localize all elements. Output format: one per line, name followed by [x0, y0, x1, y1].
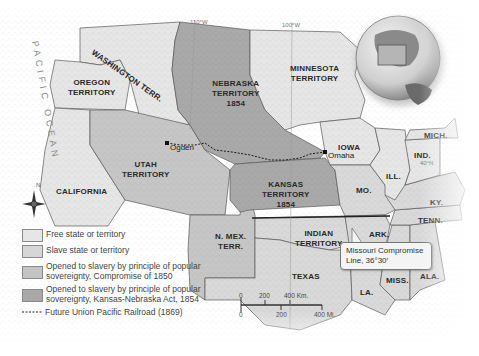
scale-mi-0: 0 — [239, 311, 243, 318]
legend-swatch-free — [22, 229, 43, 242]
label-ala: ALA. — [420, 272, 439, 282]
meridian-label-110w: 110°W — [190, 19, 208, 25]
label-utah: UTAH TERRITORY — [122, 160, 170, 180]
callout-line-1: Missouri Compromise — [346, 246, 426, 256]
label-indian: INDIAN TERRITORY — [295, 229, 343, 249]
ogden-marker — [165, 141, 169, 145]
scale-km-0: 0 — [239, 292, 243, 299]
legend-item-railroad: Future Union Pacific Railroad (1869) — [22, 307, 212, 317]
scale-km-200: 200 — [259, 292, 270, 299]
label-texas: TEXAS — [292, 272, 320, 282]
label-tenn: TENN. — [418, 216, 443, 226]
label-nmex: N. MEX. TERR. — [215, 232, 246, 252]
svg-text:N: N — [36, 182, 40, 188]
label-oregon: OREGON TERRITORY — [68, 78, 116, 98]
label-ill: ILL. — [386, 172, 401, 182]
label-la: LA. — [360, 288, 374, 298]
label-ark: ARK. — [369, 230, 389, 240]
label-nebraska: NEBRASKA TERRITORY 1854 — [212, 79, 260, 109]
city-omaha: Omaha — [328, 151, 354, 160]
callout-line-2: Line, 36°30′ — [346, 256, 426, 266]
scale-mi-200: 200 — [276, 311, 287, 318]
legend-item-free: Free state or territory — [22, 229, 212, 242]
label-ky: KY. — [430, 198, 443, 208]
map-legend: Free state or territory Slave state or t… — [22, 229, 212, 320]
legend-item-kansas-nebraska-1854: Opened to slavery by principle of popula… — [22, 284, 212, 304]
legend-swatch-compromise-1850 — [22, 266, 43, 279]
label-miss: MISS. — [386, 276, 409, 286]
missouri-compromise-callout: Missouri Compromise Line, 36°30′ — [340, 242, 432, 270]
label-mich: MICH. — [424, 131, 448, 141]
label-california: CALIFORNIA — [56, 187, 107, 197]
omaha-marker — [323, 150, 327, 154]
scale-km-400: 400 Km. — [284, 292, 308, 299]
scale-mi-400: 400 Mi. — [314, 311, 335, 318]
legend-item-slave: Slave state or territory — [22, 245, 212, 258]
legend-swatch-kansas-nebraska-1854 — [22, 289, 43, 302]
legend-item-compromise-1850: Opened to slavery by principle of popula… — [22, 261, 212, 281]
legend-swatch-slave — [22, 245, 43, 258]
railroad-symbol-icon — [22, 307, 42, 317]
label-minnesota: MINNESOTA TERRITORY — [290, 64, 339, 84]
globe-highlight-box — [378, 45, 406, 65]
meridian-label-100w: 100°W — [282, 22, 300, 28]
label-mo: MO. — [356, 186, 372, 196]
city-ogden: Ogden — [170, 143, 194, 152]
label-ind: IND. — [414, 151, 431, 161]
label-kansas: KANSAS TERRITORY 1854 — [262, 180, 310, 210]
